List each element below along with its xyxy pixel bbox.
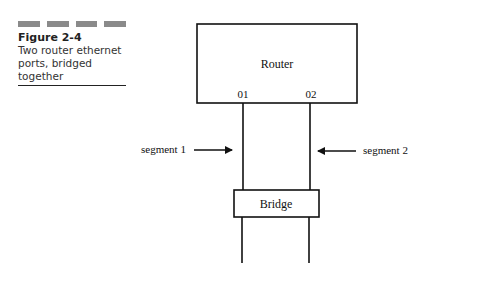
port-2-label: 02: [306, 88, 317, 100]
port-1-label: 01: [238, 88, 249, 100]
segment-1-label: segment 1: [141, 143, 186, 155]
segment-2-label: segment 2: [363, 144, 408, 156]
router-label: Router: [261, 57, 294, 71]
bridge-label: Bridge: [260, 197, 293, 211]
network-diagram: Router 01 02 segment 1 segment 2 Bridge: [0, 0, 498, 282]
